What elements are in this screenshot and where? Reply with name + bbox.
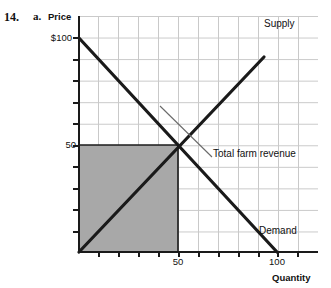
plot-area [78,16,318,253]
demand-curve-label: Demand [259,225,297,236]
y-tick-label-50: 50 [34,139,76,150]
x-tick-label-50: 50 [158,256,198,267]
revenue-leader-line [160,106,212,157]
supply-curve-label: Supply [264,18,295,29]
x-tick-label-100: 100 [257,256,297,267]
y-axis-title: Price [48,11,71,22]
question-part-label: a. [33,10,41,22]
curves-layer [78,16,318,253]
figure-container: 14. a. Price Quantity $100 50 50 100 [0,0,331,288]
total-farm-revenue-label: Total farm revenue [213,148,296,159]
x-axis-title: Quantity [272,272,311,283]
question-number: 14. [4,10,19,25]
y-tick-label-100: $100 [30,32,72,43]
